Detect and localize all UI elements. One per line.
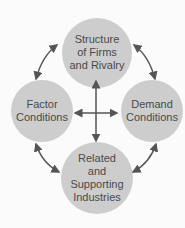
node-top-label: Structure of Firms and Rivalry xyxy=(62,22,132,82)
label-line: Industries xyxy=(73,191,121,204)
label-line: Conditions xyxy=(126,111,178,124)
label-line: Related xyxy=(78,152,116,165)
arrow-top-right xyxy=(134,45,155,79)
label-line: of Firms xyxy=(77,46,117,59)
label-line: and Rivalry xyxy=(69,59,124,72)
label-line: Factor xyxy=(26,98,57,111)
label-line: and xyxy=(88,165,106,178)
label-line: Conditions xyxy=(16,111,68,124)
node-right-label: Demand Conditions xyxy=(121,94,183,128)
arrow-top-left xyxy=(36,45,57,79)
node-bottom-label: Related and Supporting Industries xyxy=(60,148,134,208)
label-line: Structure xyxy=(75,33,120,46)
node-left-label: Factor Conditions xyxy=(11,94,73,128)
porter-diamond-diagram: Structure of Firms and Rivalry Factor Co… xyxy=(0,0,185,228)
label-line: Demand xyxy=(131,98,173,111)
label-line: Supporting xyxy=(70,178,123,191)
arrow-right-bottom xyxy=(133,144,156,172)
arrow-left-bottom xyxy=(36,144,59,172)
